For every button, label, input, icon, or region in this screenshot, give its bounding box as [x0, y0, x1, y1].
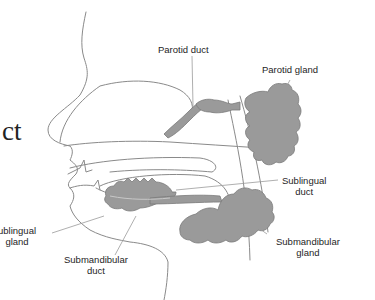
label-sublingual-gland-line2: gland — [0, 236, 36, 247]
label-parotid-gland-text: Parotid gland — [262, 64, 318, 75]
parotid-duct-connector — [196, 99, 240, 113]
cropped-text-fragment: ct — [2, 118, 22, 145]
label-sublingual-gland: ublingual gland — [0, 225, 36, 247]
label-sublingual-duct: Sublingual duct — [282, 175, 326, 197]
leader-sublingual-gland — [52, 216, 104, 233]
lower-lip-outline — [70, 180, 100, 190]
leader-sublingual-duct — [176, 180, 278, 190]
label-submandibular-duct-line2: duct — [64, 265, 128, 276]
label-submandibular-gland-line2: gland — [276, 247, 340, 258]
parotid-gland-shape — [245, 83, 301, 164]
sublingual-gland-shape — [105, 178, 176, 211]
label-parotid-duct-text: Parotid duct — [158, 44, 209, 55]
label-submandibular-duct-line1: Submandibular — [64, 254, 128, 265]
label-submandibular-gland-line1: Submandibular — [276, 236, 340, 247]
label-submandibular-gland: Submandibular gland — [276, 236, 340, 258]
label-parotid-duct: Parotid duct — [158, 44, 209, 55]
leader-parotid-duct — [192, 56, 193, 106]
label-sublingual-duct-line1: Sublingual — [282, 175, 326, 186]
label-sublingual-duct-line2: duct — [282, 186, 326, 197]
lip-outline — [68, 160, 92, 174]
leader-submandibular-duct — [115, 216, 136, 255]
label-submandibular-duct: Submandibular duct — [64, 254, 128, 276]
label-parotid-gland: Parotid gland — [262, 64, 318, 75]
hard-palate-outline — [64, 141, 262, 148]
label-sublingual-gland-line1: ublingual — [0, 225, 36, 236]
